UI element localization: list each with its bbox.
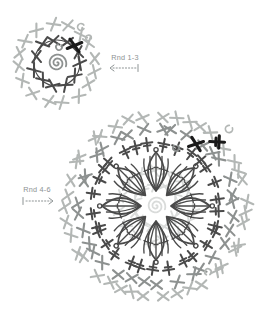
stitch-symbol-x [96,256,109,270]
stitch-symbol-x [68,69,82,83]
crochet-chart-page: Rnd 1-3 Rnd 4-6 [0,0,266,318]
stitch-symbol-plus [141,137,154,152]
stitch-symbol-plus [98,235,115,252]
stitch-symbol-x [27,63,41,77]
stitch-symbol-x [228,211,238,223]
chain-loop [204,268,213,277]
stitch-symbol-x [16,74,29,88]
stitch-symbol-x [122,115,134,125]
stitch-symbol-plus [162,261,175,276]
stitch-symbol-x [61,216,72,229]
stitch-symbol-x [66,175,75,186]
stitch-symbol-x [194,122,205,131]
stitch-symbol-x [121,130,133,140]
stitch-symbol-x [158,292,169,301]
magic-ring-spiral [50,55,67,70]
stitch-symbol-x [196,280,207,289]
stitch-symbol-x [104,277,117,289]
stitch-symbol-x [73,207,83,219]
stitch-symbol-x [151,280,162,289]
stitch-symbol-x [170,111,183,124]
stitch-symbol-x [113,270,124,279]
stitch-symbol-x [125,285,138,298]
stitch-symbol-x [183,282,196,295]
stitch-symbol-x [224,172,236,185]
stitch-symbol-x [241,195,253,208]
stitch-symbol-x [47,18,61,31]
chain-loop [85,35,91,41]
stitch-symbol-x [30,23,43,37]
chain-loop [76,22,85,31]
stitch-symbol-plus [206,175,223,190]
stitch-symbol-x [58,78,72,92]
stitch-symbol-x [14,60,25,72]
stitch-symbol-plus [157,138,171,153]
stitch-symbol-x [72,89,85,103]
annotation-rnd-4-6: Rnd 4-6 [23,185,53,205]
stitch-symbol-x [43,96,56,107]
stitch-symbol-x [115,284,127,294]
crochet-diagram: Rnd 1-3 Rnd 4-6 [0,0,266,318]
motif-rnd-1-3 [14,18,101,109]
stitch-symbol-x [138,124,151,135]
annotation-rnd-1-3: Rnd 1-3 [110,53,139,72]
stitch-symbol-x [139,277,150,286]
stitch-symbol-x [83,37,94,50]
rnd-4-6-label: Rnd 4-6 [23,185,51,194]
stitch-symbol-plus [86,207,101,220]
stitch-symbol-x [55,96,69,109]
stitch-symbol-x [26,88,39,99]
stitch-symbol-plus [91,172,108,188]
stitch-symbol-x [181,130,192,139]
petal-cluster [158,208,206,256]
stitch-symbol-x [62,190,73,202]
stitch-symbol-x [59,201,70,214]
stitch-symbol-x [138,292,149,300]
stitch-symbol-x [157,113,169,122]
stitch-symbol-x [65,228,78,241]
stitch-symbol-x [109,120,122,133]
motif-rnd-4-6 [59,111,253,300]
stitch-symbol-plus [169,140,184,157]
chain-loop [55,43,63,51]
stitch-symbol-x [77,224,90,238]
stitch-symbol-x [91,270,104,282]
stitch-symbol-x [90,53,99,64]
stitch-symbol-x [83,77,95,90]
stitch-symbol-x [88,65,100,78]
stitch-symbol-x [225,225,235,237]
rnd-1-3-arrow [110,65,138,72]
stitch-symbol-x [136,112,148,123]
magic-ring-spiral [149,198,166,213]
stitch-symbol-plus [91,220,107,234]
stitch-symbol-x [62,20,74,30]
stitch-symbol-x [172,289,183,298]
stitch-symbol-plus [176,252,192,269]
stitch-symbol-x [238,174,247,185]
stitch-symbol-plus [129,140,143,156]
stitch-symbol-plus [210,205,224,217]
stitch-symbol-x [18,35,32,48]
stitch-symbol-x [126,273,138,283]
rnd3-sc-ring [14,18,101,109]
petal-cluster [106,156,154,204]
stitch-symbol-plus [198,236,215,253]
stitch-symbol-x [220,238,229,249]
rnd-1-3-label: Rnd 1-3 [111,53,139,62]
stitch-symbol-x [36,38,49,50]
stitch-symbol-x [206,251,219,263]
stitch-symbol-x [14,47,25,59]
rnd-4-6-arrow [23,198,53,205]
stitch-symbol-plus [124,255,139,272]
chain-loop [224,124,233,133]
stitch-symbol-x [170,276,184,289]
stitch-symbol-plus [86,187,101,200]
